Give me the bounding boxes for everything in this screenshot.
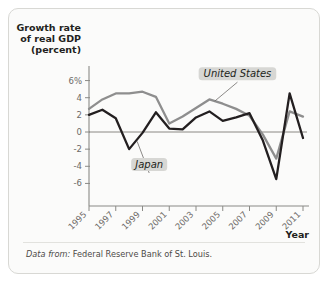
- chart-figure: 6%420-2-4-619951997199920012003200520072…: [8, 8, 320, 274]
- y-axis-title-line: (percent): [31, 44, 81, 55]
- footer-divider: [23, 242, 305, 243]
- series-line-japan: [89, 93, 303, 179]
- y-tick-label: 6%: [69, 76, 83, 86]
- x-tick-label: 1999: [120, 209, 142, 231]
- y-tick-label: -6: [74, 178, 82, 188]
- series-line-united-states: [89, 92, 303, 159]
- y-tick-label: 0: [77, 127, 82, 137]
- y-tick-label: -2: [74, 144, 82, 154]
- source-prefix: Data from:: [26, 249, 70, 259]
- x-tick-label: 2009: [253, 209, 275, 231]
- x-tick-label: 2007: [227, 209, 249, 231]
- series-label-japan: Japan: [133, 159, 163, 170]
- y-tick-label: 4: [77, 93, 82, 103]
- source-note: Data from: Federal Reserve Bank of St. L…: [26, 249, 212, 259]
- x-tick-label: 1995: [66, 209, 88, 231]
- x-axis-title: Year: [284, 229, 309, 240]
- y-tick-label: -4: [74, 161, 82, 171]
- x-tick-label: 2003: [173, 209, 195, 231]
- y-axis-title-line: of real GDP: [20, 33, 81, 44]
- x-tick-label: 2001: [146, 209, 168, 231]
- x-tick-label: 2005: [200, 209, 222, 231]
- y-tick-label: 2: [77, 110, 82, 120]
- y-axis-title-line: Growth rate: [17, 22, 81, 33]
- source-text: Federal Reserve Bank of St. Louis.: [73, 249, 212, 259]
- leader-line-united-states: [215, 82, 238, 101]
- chart-plot-area: 6%420-2-4-619951997199920012003200520072…: [9, 9, 321, 241]
- x-tick-label: 1997: [93, 209, 115, 231]
- gdp-growth-line-chart: 6%420-2-4-619951997199920012003200520072…: [9, 9, 321, 241]
- series-label-united-states: United States: [204, 68, 272, 79]
